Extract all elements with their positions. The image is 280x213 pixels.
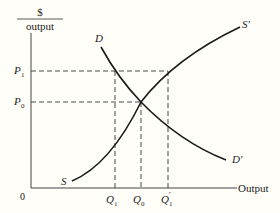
demand-end-label: D′ <box>231 153 243 165</box>
svg-text:1: 1 <box>114 200 118 208</box>
price-label-p0: P 0 <box>13 95 25 110</box>
demand-curve <box>101 47 226 160</box>
svg-text:P: P <box>13 95 21 107</box>
quantity-label-q1-prime: Q ′ 1 <box>161 191 173 208</box>
price-label-p1: P 1 <box>13 64 25 79</box>
svg-text:Q: Q <box>161 193 169 205</box>
demand-start-label: D <box>94 32 103 44</box>
svg-text:Q: Q <box>133 193 141 205</box>
svg-text:0: 0 <box>141 200 145 208</box>
svg-text:1: 1 <box>169 200 173 208</box>
supply-start-label: S <box>61 175 67 187</box>
guide-lines <box>31 71 168 188</box>
svg-text:Q: Q <box>106 193 114 205</box>
svg-text:1: 1 <box>21 71 25 79</box>
svg-text:′: ′ <box>169 191 171 200</box>
y-axis-label-numerator: $ <box>37 6 43 18</box>
y-axis-label-denominator: output <box>26 20 54 32</box>
x-axis-label: Output <box>238 182 269 194</box>
supply-curve <box>72 27 240 181</box>
origin-label: 0 <box>20 191 25 202</box>
quantity-label-q1: Q 1 <box>106 193 118 208</box>
svg-text:0: 0 <box>21 102 25 110</box>
quantity-label-q0: Q 0 <box>133 193 145 208</box>
svg-text:P: P <box>13 64 21 76</box>
supply-end-label: S′ <box>242 18 251 30</box>
supply-demand-diagram: $ output Output 0 D D′ S S′ P 1 P 0 Q 1 … <box>0 0 280 213</box>
